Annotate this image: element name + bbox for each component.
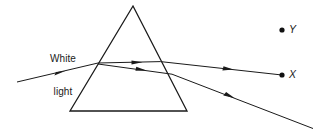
white-light-label: White light (39, 31, 87, 119)
point-x-label: X (289, 69, 296, 80)
prism-triangle (70, 6, 187, 111)
internal-ray-lower (98, 64, 172, 74)
emergent-ray-to-x (161, 62, 283, 75)
point-x-dot (279, 72, 284, 77)
point-y-dot (279, 27, 284, 32)
internal-upper-arrowhead-icon (132, 60, 143, 64)
emergent-lower-arrowhead-icon (223, 92, 234, 98)
emergent-ray-lower (172, 74, 313, 128)
white-light-label-line2: light (39, 86, 87, 97)
white-light-label-line1: White (39, 53, 87, 64)
point-y-label: Y (289, 24, 296, 35)
internal-ray-upper (98, 62, 161, 63)
prism-refraction-diagram: White light Y X (0, 0, 319, 132)
internal-lower-arrowhead-icon (135, 67, 146, 71)
